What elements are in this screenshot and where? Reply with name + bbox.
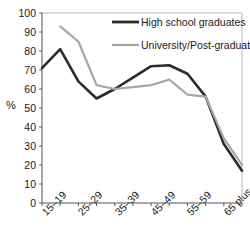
legend-label-high-school-graduates: High school graduates [141,17,245,28]
legend-label-university-post-graduates: University/Post-graduates [141,40,250,51]
plot-area [0,0,250,251]
line-chart: % 0102030405060708090100 15–1925–2935–39… [0,0,250,251]
